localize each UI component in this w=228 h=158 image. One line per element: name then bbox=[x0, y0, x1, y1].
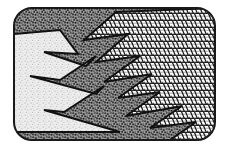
textured-regions-figure bbox=[0, 0, 228, 158]
figure-container: Interlocking textured regions diagram Ro… bbox=[0, 0, 228, 158]
panel-contents bbox=[14, 8, 215, 140]
